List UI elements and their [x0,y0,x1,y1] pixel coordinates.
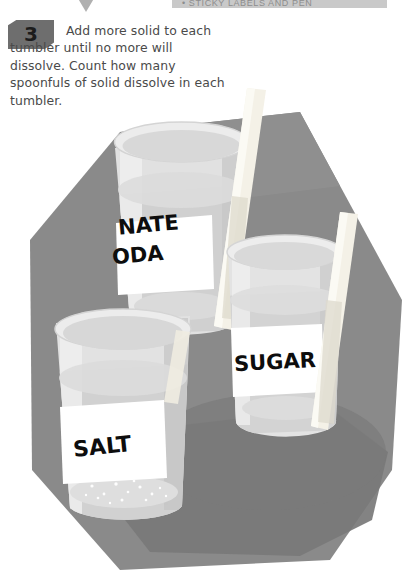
step-instruction-text: Add more solid to each tumbler until no … [10,22,225,109]
page-root: NATE ODA SUGAR SALT • STICKY LABELS AND … [0,0,404,573]
materials-banner: • STICKY LABELS AND PEN [172,0,387,8]
step-instruction-body: Add more solid to each tumbler until no … [10,23,225,108]
label-bicarbonate-soda-line2: ODA [111,241,164,269]
materials-banner-text: • STICKY LABELS AND PEN [182,0,312,8]
down-triangle-icon [73,0,99,12]
salt-tumbler [52,309,194,524]
label-sugar: SUGAR [233,348,316,376]
